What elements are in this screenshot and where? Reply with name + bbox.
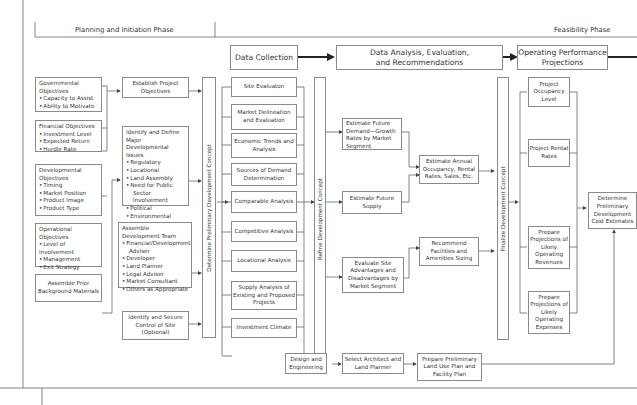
team-title: Assemble Development Team: [122, 225, 188, 240]
evaluate-site-advantages: Evaluate Site Advantages and Disadvantag…: [342, 257, 404, 293]
developmental-title: Developmental Objectives: [39, 167, 98, 182]
list-item: Land Planner: [122, 263, 188, 271]
stage-data-analysis: Data Analysis, Evaluation, and Recommend…: [336, 45, 503, 70]
list-item: Financial/Development: [122, 240, 188, 248]
list-item: Others as Appropriate: [122, 286, 188, 294]
dc-item-market: Market Delineation and Evaluation: [231, 104, 297, 130]
list-item: Hurdle Rate: [39, 146, 98, 154]
stage-data-collection: Data Collection: [230, 45, 298, 70]
financial-objectives: Financial Objectives Investment LevelExp…: [35, 120, 102, 152]
list-item: Timing: [39, 182, 98, 190]
list-item: Market Position: [39, 190, 98, 198]
development-team: Assemble Development Team Financial/Deve…: [118, 222, 192, 288]
determine-concept-label: Determine Preliminary Development Concep…: [206, 144, 212, 271]
stage-operating-projections: Operating Performance Projections: [517, 45, 608, 70]
developmental-issues: Identify and Define Major Developmental …: [122, 126, 189, 206]
finalize-concept-label: Finalize Development Concept: [500, 166, 506, 251]
estimate-future-supply: Estimate Future Supply: [342, 191, 402, 214]
list-item: Capacity to Assist: [39, 95, 98, 103]
background-materials: Assemble Prior Background Materials: [35, 274, 102, 302]
cost-estimates: Determine Preliminary Development Cost E…: [588, 192, 637, 229]
dc-item-supply: Supply Analysis of Existing and Proposed…: [231, 281, 297, 310]
site-control: Identify and Secure Control of Site (Opt…: [122, 311, 189, 340]
issues-title: Identify and Define Major Developmental …: [126, 129, 185, 159]
refine-concept-label: Refine Development Concept: [317, 178, 323, 260]
estimate-annual-occupancy: Estimate Annual Occupancy, Rental Rates,…: [419, 155, 479, 184]
list-item: Level of Involvement: [39, 241, 98, 256]
list-item: Regulatory: [126, 159, 185, 167]
list-item: Product Type: [39, 205, 98, 213]
list-item: Locational: [126, 167, 185, 175]
list-item: Expected Return: [39, 138, 98, 146]
dc-item-competitive: Competitive Analysis: [231, 221, 297, 242]
estimate-future-demand: Estimate Future Demand—Growth Rates by M…: [342, 118, 402, 150]
dc-item-locational: Locational Analysis: [231, 250, 297, 272]
dc-item-demand: Sources of Demand Determination: [231, 163, 297, 186]
recommend-facilities: Recommend Facilities and Amenities Sizin…: [419, 237, 479, 266]
dc-item-investment: Investment Climate: [231, 318, 297, 338]
governmental-title: Governmental Objectives: [39, 80, 98, 95]
list-item: Market Consultant: [122, 278, 188, 286]
phase-feasibility: Feasibility Phase: [554, 26, 610, 34]
list-item: Environmental: [126, 213, 185, 221]
project-rental-rates: Project Rental Rates: [528, 139, 570, 167]
financial-title: Financial Objectives: [39, 123, 98, 131]
list-item: Land Assembly: [126, 175, 185, 183]
operational-title: Operational Objectives: [39, 226, 98, 241]
project-occupancy-level: Project Occupancy Level: [528, 77, 570, 107]
dc-item-economic: Economic Trends and Analysis: [231, 133, 297, 158]
list-item: Adviser: [122, 248, 188, 256]
list-item: Ability to Motivate: [39, 103, 98, 111]
phase-planning: Planning and Initiation Phase: [75, 26, 174, 34]
list-item: Management: [39, 256, 98, 264]
list-item: Developer: [122, 255, 188, 263]
determine-concept-bar: Determine Preliminary Development Concep…: [202, 77, 216, 338]
list-item: Political: [126, 205, 185, 213]
finalize-concept-bar: Finalize Development Concept: [497, 77, 509, 340]
dc-item-comparable: Comparable Analysis: [231, 191, 297, 213]
refine-concept-bar: Refine Development Concept: [314, 77, 326, 360]
preliminary-land-use-plan: Prepare Preliminary Land Use Plan and Fa…: [417, 353, 482, 381]
list-item: Legal Adviser: [122, 271, 188, 279]
list-item: Product Image: [39, 197, 98, 205]
list-item: Need for Public: [126, 182, 185, 190]
list-item: Sector Involvement: [126, 190, 185, 205]
dc-item-site: Site Evaluaton: [231, 77, 297, 97]
developmental-objectives: Developmental Objectives TimingMarket Po…: [35, 164, 102, 216]
list-item: Investment Level: [39, 131, 98, 139]
operational-objectives: Operational Objectives Level of Involvem…: [35, 223, 102, 267]
operating-revenues: Prepare Projections of Likely Operating …: [528, 226, 570, 269]
list-item: Exit Strategy: [39, 264, 98, 272]
establish-objectives: Establish Project Objectives: [122, 77, 189, 98]
select-architect: Select Architect and Land Planner: [342, 353, 404, 374]
design-engineering: Design and Engineering: [285, 353, 327, 374]
operating-expenses: Prepare Projections of Likely Operating …: [528, 291, 570, 334]
governmental-objectives: Governmental Objectives Capacity to Assi…: [35, 77, 102, 112]
